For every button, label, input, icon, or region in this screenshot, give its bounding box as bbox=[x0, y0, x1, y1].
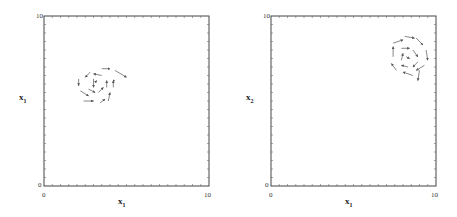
vector-arrow bbox=[100, 99, 105, 102]
vector-arrow bbox=[413, 62, 418, 67]
x-tick-10: 10 bbox=[431, 191, 438, 199]
vector-arrow bbox=[401, 53, 403, 60]
x-tick-0: 0 bbox=[269, 191, 273, 199]
plot-frame bbox=[271, 16, 436, 186]
vector-arrow bbox=[413, 50, 418, 57]
y-tick-0: 0 bbox=[265, 181, 269, 189]
vector-arrow bbox=[95, 81, 97, 83]
x-axis-label: x1 bbox=[118, 196, 126, 208]
vector-arrow bbox=[406, 57, 409, 59]
vector-arrow bbox=[85, 72, 90, 77]
x-tick-0: 0 bbox=[42, 191, 46, 199]
y-tick-10: 10 bbox=[36, 12, 43, 20]
vector-plot-right: 10 0 0 10 x2 x1 bbox=[227, 0, 455, 217]
y-axis-label: x1 bbox=[19, 92, 27, 104]
y-axis-label: x2 bbox=[246, 92, 254, 104]
y-tick-0: 0 bbox=[38, 181, 42, 189]
vector-arrow bbox=[393, 40, 403, 43]
vector-arrow bbox=[98, 87, 103, 92]
x-axis-label: x1 bbox=[345, 196, 353, 208]
vector-arrow bbox=[416, 38, 423, 45]
vector-arrow bbox=[401, 65, 408, 67]
vector-arrow bbox=[403, 72, 413, 75]
vector-arrow bbox=[426, 50, 428, 60]
vector-arrow bbox=[405, 36, 415, 38]
vector-arrow bbox=[89, 89, 96, 92]
plot-area bbox=[0, 0, 228, 217]
x-tick-10: 10 bbox=[204, 191, 211, 199]
vector-arrow bbox=[416, 65, 424, 70]
vector-arrow bbox=[108, 93, 110, 102]
y-tick-10: 10 bbox=[263, 12, 270, 20]
plot-area bbox=[227, 0, 455, 217]
vector-arrow bbox=[418, 70, 420, 80]
vector-arrow bbox=[94, 74, 102, 76]
vector-arrow bbox=[391, 64, 396, 71]
plot-frame bbox=[44, 16, 209, 186]
vector-arrow bbox=[80, 91, 88, 96]
vector-arrow bbox=[115, 70, 127, 77]
vector-plot-left: 10 0 0 10 x1 x1 bbox=[0, 0, 228, 217]
